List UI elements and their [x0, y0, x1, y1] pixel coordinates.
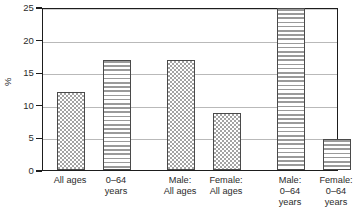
x-axis-label: Female: 0–64 years	[306, 175, 357, 209]
y-axis-tick-label: 0	[29, 166, 34, 176]
bar	[213, 113, 241, 170]
bar	[103, 60, 131, 170]
x-axis-label: Female: All ages	[196, 175, 256, 197]
y-axis-tick-label: 10	[23, 101, 34, 111]
x-axis-label: 0–64 years	[86, 175, 146, 197]
bar	[277, 8, 305, 170]
plot-area	[42, 8, 338, 171]
y-axis-tick-label: 15	[23, 68, 34, 78]
y-axis-tick-label: 5	[29, 133, 34, 143]
y-axis-tick-label: 20	[23, 36, 34, 46]
y-axis-tick-label: 25	[23, 3, 34, 13]
y-axis-title: %	[2, 78, 13, 86]
bar	[167, 60, 195, 170]
bar	[323, 139, 351, 170]
bar	[57, 92, 85, 170]
